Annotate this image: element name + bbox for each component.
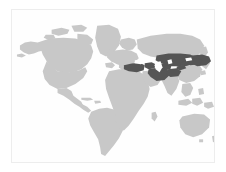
world-map [12, 10, 214, 162]
land-tasmania [199, 139, 203, 142]
land-philippines [198, 88, 204, 95]
screenshot-root [0, 0, 226, 172]
map-frame [11, 9, 215, 163]
